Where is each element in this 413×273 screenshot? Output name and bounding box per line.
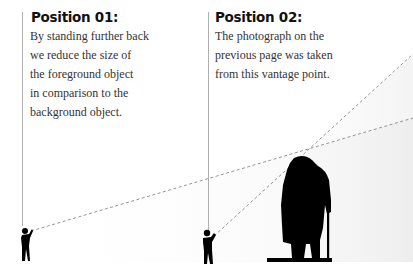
description-line: we reduce the size of xyxy=(30,46,149,65)
description-line: previous page was taken xyxy=(215,46,333,65)
description-line: in comparison to the xyxy=(30,84,149,103)
description-line: from this vantage point. xyxy=(215,65,333,84)
description-line: By standing further back xyxy=(30,27,149,46)
position-02-description: The photograph on the previous page was … xyxy=(215,27,333,84)
position-01-heading: Position 01: xyxy=(31,9,118,25)
description-line: the foreground object xyxy=(30,65,149,84)
position-02-heading: Position 02: xyxy=(215,9,302,25)
description-line: The photograph on the xyxy=(215,27,333,46)
position-01-description: By standing further back we reduce the s… xyxy=(30,27,149,122)
description-line: background object. xyxy=(30,103,149,122)
